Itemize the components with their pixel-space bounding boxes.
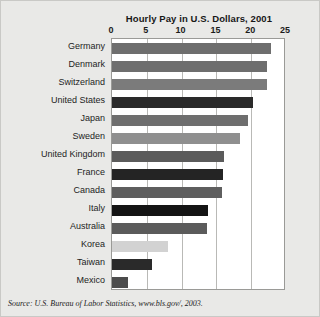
bar-australia — [112, 223, 207, 234]
bar-japan — [112, 115, 248, 126]
bar-row — [112, 133, 240, 144]
category-label-korea: Korea — [81, 239, 105, 250]
bar-taiwan — [112, 259, 152, 270]
category-label-germany: Germany — [68, 41, 105, 52]
bar-canada — [112, 187, 222, 198]
bar-row — [112, 169, 223, 180]
plot-area — [111, 38, 285, 290]
bar-germany — [112, 43, 271, 54]
category-label-denmark: Denmark — [68, 59, 105, 70]
x-tick-label-0: 0 — [108, 25, 113, 35]
chart-title: Hourly Pay in U.S. Dollars, 2001 — [109, 13, 289, 24]
bar-row — [112, 205, 208, 216]
bar-korea — [112, 241, 168, 252]
bar-france — [112, 169, 223, 180]
bar-row — [112, 79, 267, 90]
bar-row — [112, 241, 168, 252]
chart-figure: Hourly Pay in U.S. Dollars, 2001 0510152… — [0, 0, 320, 317]
bar-switzerland — [112, 79, 267, 90]
category-label-taiwan: Taiwan — [77, 257, 105, 268]
category-axis-labels: GermanyDenmarkSwitzerlandUnited StatesJa… — [5, 38, 108, 290]
bar-united-states — [112, 97, 253, 108]
bar-row — [112, 277, 128, 288]
category-label-united-states: United States — [51, 95, 105, 106]
bar-row — [112, 151, 224, 162]
x-tick-label-20: 20 — [245, 25, 255, 35]
bar-row — [112, 61, 267, 72]
bar-row — [112, 259, 152, 270]
source-note: Source: U.S. Bureau of Labor Statistics,… — [8, 299, 203, 308]
x-tick-label-25: 25 — [280, 25, 290, 35]
category-label-switzerland: Switzerland — [58, 77, 105, 88]
category-label-mexico: Mexico — [76, 275, 105, 286]
bar-row — [112, 223, 207, 234]
bar-sweden — [112, 133, 240, 144]
bar-row — [112, 115, 248, 126]
bar-denmark — [112, 61, 267, 72]
category-label-france: France — [77, 167, 105, 178]
bar-row — [112, 43, 271, 54]
bar-united-kingdom — [112, 151, 224, 162]
category-label-italy: Italy — [88, 203, 105, 214]
category-label-japan: Japan — [80, 113, 105, 124]
x-tick-label-10: 10 — [176, 25, 186, 35]
bar-italy — [112, 205, 208, 216]
bar-series — [112, 39, 284, 289]
x-axis-tick-labels: 0510152025 — [111, 25, 285, 37]
bar-row — [112, 97, 253, 108]
bar-row — [112, 187, 222, 198]
x-tick-label-5: 5 — [143, 25, 148, 35]
category-label-united-kingdom: United Kingdom — [41, 149, 105, 160]
bar-mexico — [112, 277, 128, 288]
x-tick-label-15: 15 — [210, 25, 220, 35]
category-label-canada: Canada — [73, 185, 105, 196]
category-label-australia: Australia — [70, 221, 105, 232]
category-label-sweden: Sweden — [72, 131, 105, 142]
